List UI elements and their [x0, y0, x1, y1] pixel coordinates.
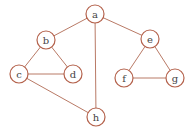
node-b: b — [37, 31, 55, 49]
edge-a-h — [95, 14, 96, 117]
node-label: c — [16, 69, 22, 80]
node-f: f — [115, 69, 133, 87]
node-g: g — [166, 69, 184, 87]
node-e: e — [141, 30, 159, 48]
node-label: e — [147, 34, 153, 45]
nodes-layer: abcdefgh — [10, 5, 184, 126]
edge-c-h — [19, 74, 96, 117]
node-d: d — [64, 65, 82, 83]
node-label: a — [92, 9, 98, 20]
node-label: g — [172, 73, 179, 84]
node-label: b — [43, 35, 49, 46]
node-label: d — [70, 69, 77, 80]
edges-layer — [19, 14, 175, 117]
node-c: c — [10, 65, 28, 83]
node-h: h — [87, 108, 105, 126]
graph-diagram: abcdefgh — [0, 0, 195, 136]
node-label: h — [93, 112, 100, 123]
node-a: a — [86, 5, 104, 23]
